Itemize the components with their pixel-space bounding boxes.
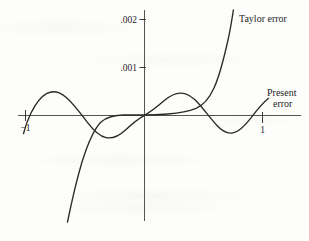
error-comparison-figure: .002 .001 −1 1 Taylor error Present erro… bbox=[0, 0, 309, 241]
axes-group bbox=[18, 10, 301, 221]
taylor-error-label: Taylor error bbox=[239, 13, 288, 24]
y-tick-label-002: .002 bbox=[120, 15, 137, 25]
present-error-curve bbox=[24, 92, 269, 138]
present-error-label-line1: Present bbox=[267, 87, 297, 98]
present-error-label-line2: error bbox=[273, 98, 293, 109]
y-axis-ticks: .002 .001 bbox=[120, 15, 146, 73]
x-tick-label-one: 1 bbox=[260, 125, 265, 135]
y-tick-label-001: .001 bbox=[120, 63, 137, 73]
annotations-group: Taylor error Present error bbox=[239, 13, 297, 109]
chart-canvas: .002 .001 −1 1 Taylor error Present erro… bbox=[0, 0, 309, 241]
x-axis-ticks: −1 1 bbox=[20, 110, 265, 135]
